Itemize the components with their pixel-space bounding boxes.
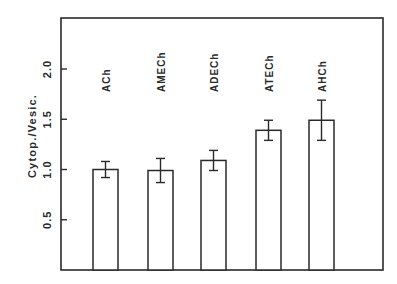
bar: [309, 120, 334, 270]
bars: AChAMEChADEChATEChAHCh: [93, 51, 334, 270]
bar-chart: 0.51.01.52.0 AChAMEChADEChATEChAHCh Cyto…: [0, 0, 397, 284]
bar-group: ACh: [93, 68, 118, 270]
y-tick-label: 1.0: [41, 160, 53, 178]
y-axis-label: Cytop./Vesic.: [26, 94, 38, 178]
category-label: ACh: [101, 68, 112, 92]
category-label: ATECh: [264, 54, 275, 92]
bar: [201, 160, 226, 270]
bar: [256, 130, 281, 270]
bar-group: ADECh: [201, 53, 226, 270]
bar-group: AHCh: [309, 60, 334, 270]
category-label: AHCh: [317, 60, 328, 92]
y-axis-ticks: 0.51.01.52.0: [41, 60, 67, 229]
category-label: AMECh: [156, 51, 167, 92]
bar-group: AMECh: [148, 51, 173, 270]
bar-group: ATECh: [256, 54, 281, 270]
y-tick-label: 2.0: [41, 60, 53, 78]
bar: [93, 170, 118, 271]
y-tick-label: 1.5: [41, 110, 53, 128]
y-tick-label: 0.5: [41, 211, 53, 229]
category-label: ADECh: [209, 53, 220, 92]
bar: [148, 171, 173, 270]
